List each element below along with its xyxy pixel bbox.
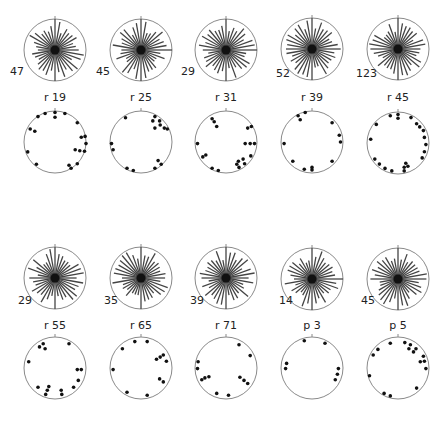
data-point [151, 119, 155, 123]
data-point [46, 389, 50, 393]
point-plot [24, 108, 88, 173]
data-point [389, 341, 393, 345]
data-point [338, 133, 342, 137]
data-point [424, 367, 428, 371]
count-label-r55: 29 [18, 294, 32, 307]
data-point [375, 123, 379, 127]
data-point [246, 126, 250, 130]
point-plot-outline [110, 337, 172, 399]
data-point [200, 378, 204, 382]
data-point [227, 394, 231, 398]
rose-center [394, 45, 403, 54]
panel-label-r55: r 55 [44, 319, 66, 332]
data-point [409, 116, 413, 120]
data-point [125, 167, 129, 171]
point-plot [24, 334, 86, 399]
point-plot [281, 334, 343, 399]
data-point [78, 149, 82, 153]
data-point [423, 136, 427, 140]
point-plot [281, 108, 343, 173]
data-point [373, 157, 377, 161]
data-point [28, 127, 32, 131]
data-point [296, 114, 300, 118]
data-point [196, 367, 200, 371]
data-point [145, 340, 149, 344]
count-label-r31: 29 [181, 65, 195, 78]
data-point [204, 153, 208, 157]
point-plot-outline [281, 337, 343, 399]
data-point [237, 159, 241, 163]
data-point [396, 116, 400, 120]
rose-diagram [24, 244, 86, 309]
data-point [310, 168, 314, 172]
data-point [419, 360, 423, 364]
panel-label-r31: r 31 [215, 91, 237, 104]
data-point [145, 394, 149, 398]
data-point [339, 140, 343, 144]
panel-label-r19: r 19 [44, 91, 66, 104]
rose-diagram-figure: 47 r 19 45 r 25 29 r 31 52 r 39 123 r 45… [0, 0, 448, 422]
data-point [43, 347, 47, 351]
data-point [27, 360, 31, 364]
data-point [248, 354, 252, 358]
data-point [80, 368, 84, 372]
data-point [159, 163, 163, 167]
data-point [215, 125, 219, 129]
data-point [133, 340, 137, 344]
data-point [125, 390, 129, 394]
data-point [166, 127, 170, 131]
data-point [203, 376, 207, 380]
data-point [330, 159, 334, 163]
point-plot [367, 334, 429, 399]
rose-center [222, 274, 231, 283]
rose-diagram [110, 244, 172, 309]
point-plot [110, 108, 172, 173]
count-label-r25: 45 [96, 65, 110, 78]
panel-label-r39: r 39 [301, 91, 323, 104]
data-point [77, 379, 81, 383]
data-point [59, 389, 63, 393]
data-point [422, 354, 426, 358]
data-point [253, 142, 257, 146]
data-point [285, 362, 289, 366]
data-point [121, 347, 125, 351]
rose-diagram [195, 244, 257, 309]
data-point [407, 347, 411, 351]
point-plot-outline [195, 111, 257, 173]
data-point [284, 367, 288, 371]
data-point [402, 165, 406, 169]
data-point [390, 169, 394, 173]
data-point [323, 341, 327, 345]
rose-center [394, 275, 403, 284]
data-point [111, 368, 115, 372]
rose-diagram [24, 16, 86, 81]
data-point [69, 167, 73, 171]
data-point [41, 342, 45, 346]
data-point [406, 165, 410, 169]
data-point [36, 115, 40, 119]
data-point [378, 162, 382, 166]
point-plot [110, 334, 172, 399]
data-point [83, 150, 87, 154]
panel-label-r71: r 71 [215, 319, 237, 332]
data-point [35, 163, 39, 167]
count-label-r71: 39 [190, 294, 204, 307]
data-point [238, 376, 242, 380]
data-point [26, 150, 30, 154]
data-point [83, 135, 87, 139]
data-point [243, 142, 247, 146]
data-point [44, 393, 48, 397]
rose-center [222, 46, 231, 55]
data-point [423, 359, 427, 363]
rose-center [51, 46, 60, 55]
count-label-r45: 123 [356, 67, 377, 80]
data-point [76, 162, 80, 166]
data-point [212, 120, 216, 124]
data-point [291, 159, 295, 163]
data-point [330, 121, 334, 125]
point-plot-outline [281, 111, 343, 173]
data-point [249, 154, 253, 158]
data-point [207, 375, 211, 379]
data-point [153, 167, 157, 171]
data-point [383, 167, 387, 171]
